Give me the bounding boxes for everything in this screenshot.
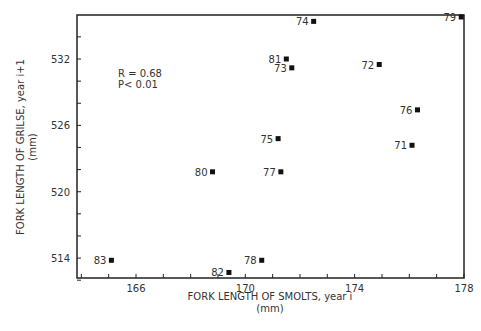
x-tick-label: 166 (126, 283, 145, 294)
y-tick-label: 532 (51, 54, 70, 65)
svg-text:79: 79 (443, 12, 456, 23)
data-point: 76 (400, 105, 420, 116)
data-point: 78 (244, 255, 264, 266)
y-tick-label: 520 (51, 187, 70, 198)
p-annotation: P< 0.01 (118, 79, 158, 90)
svg-text:81: 81 (269, 54, 282, 65)
data-point: 83 (94, 255, 114, 266)
svg-text:78: 78 (244, 255, 257, 266)
x-axis-unit: (mm) (256, 303, 283, 314)
y-tick-label: 526 (51, 120, 70, 131)
svg-text:71: 71 (394, 140, 407, 151)
svg-text:80: 80 (195, 167, 208, 178)
data-point: 72 (362, 60, 382, 71)
svg-text:75: 75 (260, 134, 273, 145)
svg-text:82: 82 (211, 267, 224, 278)
x-tick-label: 178 (454, 283, 473, 294)
data-point: 79 (443, 12, 463, 23)
data-point: 80 (195, 167, 215, 178)
x-axis-label: FORK LENGTH OF SMOLTS, year i (188, 291, 353, 302)
scatter-chart: 166170174178 514520526532 71727374757677… (0, 0, 481, 331)
data-point: 82 (211, 267, 231, 278)
svg-text:74: 74 (296, 16, 309, 27)
y-axis-unit: (mm) (27, 133, 38, 160)
svg-text:72: 72 (362, 60, 375, 71)
data-points: 71727374757677787980818283 (94, 12, 464, 278)
svg-text:77: 77 (263, 167, 276, 178)
svg-text:83: 83 (94, 255, 107, 266)
y-tick-label: 514 (51, 253, 70, 264)
data-point: 77 (263, 167, 283, 178)
svg-text:76: 76 (400, 105, 413, 116)
data-point: 71 (394, 140, 414, 151)
data-point: 75 (260, 134, 280, 145)
data-point: 74 (296, 16, 316, 27)
r-annotation: R = 0.68 (118, 68, 162, 79)
y-axis-label: FORK LENGTH OF GRILSE, year i+1 (15, 59, 26, 235)
